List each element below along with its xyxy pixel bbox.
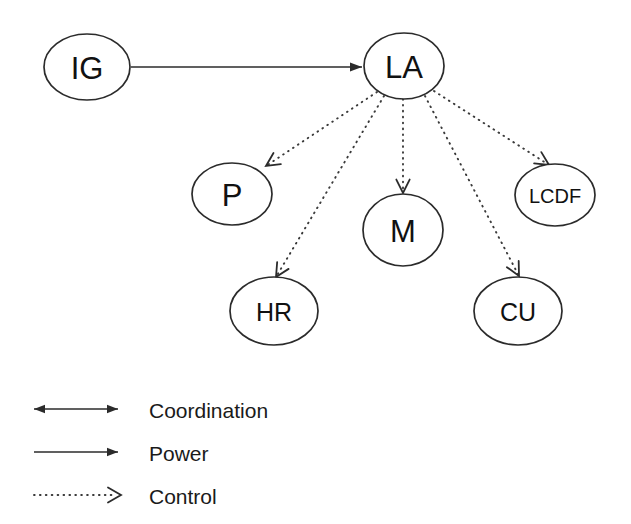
- node-label-lcdf: LCDF: [529, 185, 581, 207]
- node-m[interactable]: M: [363, 194, 443, 266]
- node-layer: IGLAPMLCDFHRCU: [44, 33, 595, 345]
- node-ig[interactable]: IG: [44, 34, 130, 100]
- node-label-p: P: [222, 178, 243, 213]
- legend-label-coordination: Coordination: [149, 399, 268, 422]
- legend-label-power: Power: [149, 442, 209, 465]
- diagram-root: IGLAPMLCDFHRCU CoordinationPowerControl: [0, 0, 631, 524]
- legend-layer: CoordinationPowerControl: [34, 399, 268, 508]
- edge-la-cu: [425, 96, 519, 276]
- edge-layer: [131, 62, 549, 277]
- node-p[interactable]: P: [192, 163, 272, 225]
- legend-label-control: Control: [149, 485, 217, 508]
- edge-la-hr: [276, 96, 384, 277]
- node-hr[interactable]: HR: [230, 277, 318, 345]
- legend-symbol-control: [34, 488, 121, 503]
- legend-item-coordination: Coordination: [34, 399, 268, 422]
- node-label-m: M: [390, 214, 416, 249]
- edge-la-m: [396, 99, 409, 193]
- node-cu[interactable]: CU: [474, 277, 562, 345]
- edge-la-lcdf: [434, 91, 549, 165]
- node-label-hr: HR: [256, 298, 292, 326]
- node-label-la: LA: [385, 50, 423, 85]
- legend-symbol-power: [34, 448, 118, 456]
- relationship-diagram-canvas: IGLAPMLCDFHRCU CoordinationPowerControl: [0, 0, 631, 524]
- edge-ig-la: [131, 62, 362, 71]
- node-label-cu: CU: [500, 298, 536, 326]
- node-label-ig: IG: [71, 51, 104, 86]
- legend-symbol-coordination: [34, 405, 118, 413]
- legend-item-control: Control: [34, 485, 217, 508]
- node-lcdf[interactable]: LCDF: [515, 164, 595, 226]
- node-la[interactable]: LA: [364, 33, 444, 99]
- edge-la-p: [266, 92, 377, 166]
- legend-item-power: Power: [34, 442, 209, 465]
